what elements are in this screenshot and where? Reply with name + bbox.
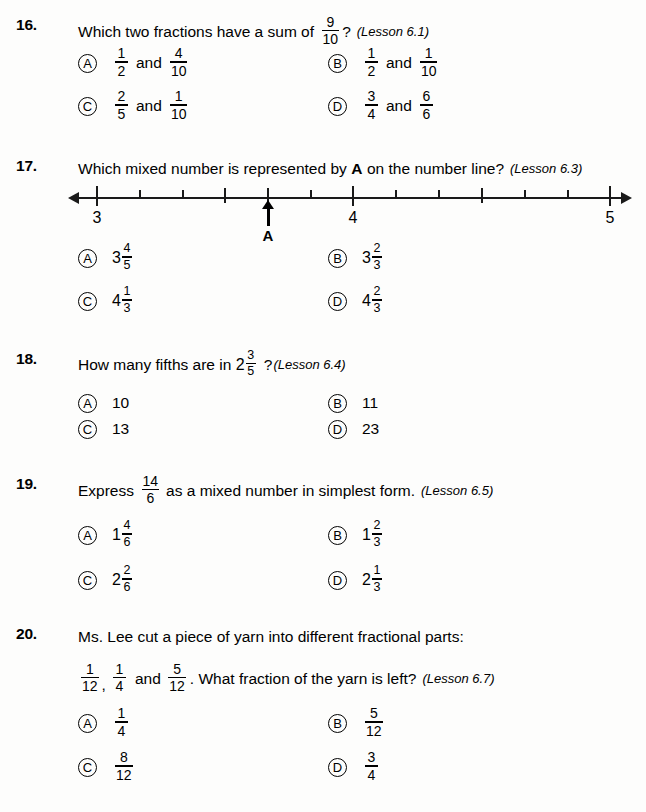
fraction-numerator: 3	[367, 750, 377, 764]
conjunction: and	[135, 667, 161, 691]
prompt-fraction-3: 5 12	[168, 662, 186, 693]
option-fraction-2: 1 10	[420, 46, 438, 77]
option-a[interactable]: A 1 4	[78, 708, 131, 738]
fraction-numerator: 1	[117, 706, 127, 720]
option-bubble[interactable]: C	[78, 97, 97, 116]
option-text: 2 1 3	[362, 565, 385, 594]
question-prompt: Express 14 6 as a mixed number in simple…	[78, 475, 638, 506]
option-text: 2 5 and 1 10	[112, 90, 190, 121]
answer-options: A 1 4 B 5 12	[78, 708, 638, 772]
fraction-numerator: 6	[421, 89, 431, 103]
option-bubble[interactable]: A	[78, 526, 97, 545]
mixed-number: 4 2 3	[362, 286, 385, 315]
option-d[interactable]: D 23	[328, 414, 379, 444]
axis-arrow-left-icon	[68, 192, 79, 204]
question-number: 20.	[16, 625, 37, 643]
option-c[interactable]: C 13	[78, 414, 129, 444]
answer-options: A 1 2 and 4 10 B	[78, 48, 638, 112]
option-bubble[interactable]: D	[328, 97, 347, 116]
fraction-numerator: 2	[122, 564, 131, 577]
option-bubble[interactable]: B	[328, 54, 347, 73]
option-d[interactable]: D 4 2 3	[328, 286, 385, 316]
question-prompt-line-1: Ms. Lee cut a piece of yarn into differe…	[78, 625, 638, 649]
option-bubble[interactable]: D	[328, 758, 347, 777]
fraction-numerator: 1	[372, 564, 381, 577]
whole-part: 2	[112, 571, 121, 589]
prompt-suffix: as a mixed number in simplest form.	[166, 479, 415, 503]
fraction-numerator: 3	[367, 89, 377, 103]
option-d[interactable]: D 2 1 3	[328, 565, 385, 595]
question-prompt: Which two fractions have a sum of 9 10 ?…	[78, 16, 638, 47]
option-bubble[interactable]: A	[78, 54, 97, 73]
option-text: 1 2 3	[362, 520, 385, 549]
option-b[interactable]: B 5 12	[328, 708, 386, 738]
option-b[interactable]: B 1 2 3	[328, 520, 385, 550]
option-bubble[interactable]: B	[328, 249, 347, 268]
axis-label-4: 4	[349, 209, 358, 227]
option-bubble[interactable]: B	[328, 714, 347, 733]
option-b[interactable]: B 3 2 3	[328, 243, 385, 273]
option-text: 3 2 3	[362, 243, 385, 272]
option-fraction: 5 12	[365, 706, 383, 737]
option-fraction-1: 2 5	[115, 89, 128, 120]
option-bubble[interactable]: C	[78, 758, 97, 777]
question-number: 17.	[16, 157, 37, 175]
question-body: How many fifths are in 2 3 5 ? (Lesson 6…	[78, 350, 638, 379]
prompt-marker-letter: A	[351, 157, 362, 181]
whole-part: 1	[112, 526, 121, 544]
tick-minor	[310, 190, 312, 199]
option-c[interactable]: C 2 2 6	[78, 565, 135, 595]
option-a[interactable]: A 3 4 5	[78, 243, 135, 273]
option-bubble[interactable]: D	[328, 292, 347, 311]
option-a[interactable]: A 1 2 and 4 10	[78, 48, 190, 78]
option-bubble[interactable]: A	[78, 394, 97, 413]
number-line-axis	[74, 197, 628, 199]
option-text: 10	[112, 394, 129, 412]
option-bubble[interactable]: B	[328, 394, 347, 413]
whole-part: 3	[362, 249, 371, 267]
lesson-tag: (Lesson 6.1)	[357, 20, 429, 44]
option-bubble[interactable]: D	[328, 571, 347, 590]
fraction-denominator: 5	[246, 365, 255, 378]
fraction-denominator: 4	[117, 724, 127, 738]
fraction-denominator: 3	[372, 536, 381, 549]
separator-comma: ,	[102, 673, 106, 697]
tick-mid	[224, 188, 226, 203]
option-text: 23	[362, 420, 379, 438]
option-d[interactable]: D 3 4	[328, 752, 381, 782]
fraction-numerator: 2	[117, 89, 127, 103]
option-c[interactable]: C 8 12	[78, 752, 136, 782]
question-body: Express 14 6 as a mixed number in simple…	[78, 475, 638, 506]
option-bubble[interactable]: D	[328, 420, 347, 439]
answer-options: A 3 4 5 B 3	[78, 243, 638, 307]
option-fraction-2: 6 6	[420, 89, 433, 120]
fraction-denominator: 4	[114, 679, 124, 693]
option-a[interactable]: A 1 4 6	[78, 520, 135, 550]
option-bubble[interactable]: C	[78, 292, 97, 311]
option-bubble[interactable]: C	[78, 420, 97, 439]
fraction-numerator: 1	[367, 46, 377, 60]
fraction-denominator: 3	[372, 302, 381, 315]
fraction-numerator: 2	[372, 242, 381, 255]
fraction-denominator: 12	[168, 679, 186, 693]
option-b[interactable]: B 1 2 and 1 10	[328, 48, 440, 78]
fraction-denominator: 12	[81, 679, 99, 693]
arrow-shaft	[267, 206, 270, 226]
option-bubble[interactable]: B	[328, 526, 347, 545]
option-fraction-2: 4 10	[170, 46, 188, 77]
prompt-fraction-1: 1 12	[81, 662, 99, 693]
fraction-part: 2 3	[372, 242, 382, 271]
option-bubble[interactable]: C	[78, 571, 97, 590]
prompt-text: Express	[78, 479, 134, 503]
axis-arrow-right-icon	[621, 192, 632, 204]
fraction-numerator: 2	[372, 519, 381, 532]
question-body: Which two fractions have a sum of 9 10 ?…	[78, 16, 638, 47]
option-c[interactable]: C 2 5 and 1 10	[78, 91, 190, 121]
question-body: Ms. Lee cut a piece of yarn into differe…	[78, 625, 638, 694]
option-bubble[interactable]: A	[78, 249, 97, 268]
prompt-suffix: ?	[264, 353, 273, 377]
option-bubble[interactable]: A	[78, 714, 97, 733]
fraction-part: 1 3	[372, 564, 382, 593]
option-c[interactable]: C 4 1 3	[78, 286, 135, 316]
option-d[interactable]: D 3 4 and 6 6	[328, 91, 436, 121]
